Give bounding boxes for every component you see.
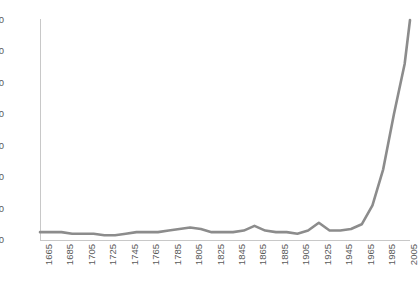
series-line-1 xyxy=(40,20,410,235)
line-chart: 020406080100120140 166516851705172517451… xyxy=(0,0,418,289)
series-layer xyxy=(0,0,418,289)
